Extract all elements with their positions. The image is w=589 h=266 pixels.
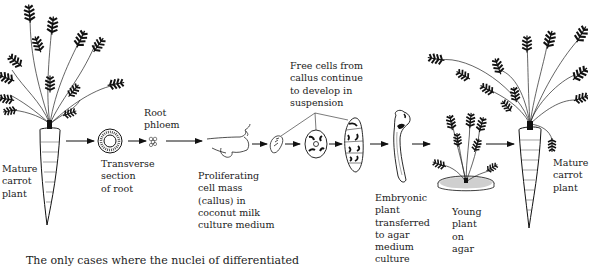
label-mature-carrot-right: Mature carrot plant bbox=[553, 157, 589, 194]
label-embryonic-plant: Embryonic plant transferred to agar medi… bbox=[375, 192, 430, 266]
free-cell-small-icon bbox=[270, 136, 283, 153]
label-root-phloem: Root phloem bbox=[144, 107, 180, 132]
label-mature-carrot-left: Mature carrot plant bbox=[2, 163, 38, 200]
transverse-section-icon bbox=[98, 129, 122, 153]
label-free-cells: Free cells from callus continue to devel… bbox=[290, 60, 363, 109]
young-plant-on-agar-icon bbox=[431, 112, 499, 190]
callus-icon bbox=[207, 124, 250, 157]
embryonic-plant-icon bbox=[394, 110, 410, 182]
label-transverse-section: Transverse section of root bbox=[101, 158, 155, 195]
label-callus: Proliferating cell mass (callus) in coco… bbox=[198, 170, 274, 231]
label-young-plant: Young plant on agar bbox=[452, 206, 481, 255]
body-text-fragment: The only cases where the nuclei of diffe… bbox=[26, 254, 299, 266]
root-phloem-icon bbox=[149, 137, 157, 146]
free-cell-segmented-icon bbox=[345, 118, 363, 172]
free-cell-round-icon bbox=[305, 130, 327, 158]
